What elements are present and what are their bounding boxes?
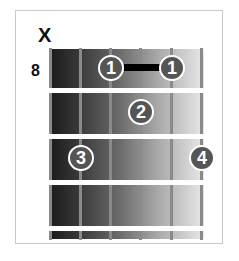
finger-dot: 4	[189, 145, 215, 171]
finger-dot: 1	[98, 55, 124, 81]
fret-1	[49, 88, 204, 93]
fret-2	[49, 134, 204, 139]
fret-4	[49, 226, 204, 231]
string-2	[79, 48, 82, 240]
muted-string-marker: X	[38, 24, 51, 47]
finger-dot: 1	[159, 55, 185, 81]
finger-dot: 2	[128, 99, 154, 125]
start-fret-label: 8	[31, 62, 40, 80]
finger-dot: 3	[68, 145, 94, 171]
barre-bar	[124, 64, 160, 71]
string-1	[49, 48, 52, 240]
fret-3	[49, 180, 204, 185]
string-4	[139, 48, 142, 240]
string-6	[200, 48, 203, 240]
